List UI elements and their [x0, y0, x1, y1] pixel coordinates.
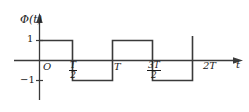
x-tick-label-t: T — [114, 62, 121, 72]
y-tick-label-minus-one: −1 — [20, 75, 35, 85]
fraction-numerator: T — [69, 61, 77, 70]
y-axis — [36, 13, 42, 100]
fraction-numerator: 3T — [147, 61, 161, 70]
y-axis-label: Φ(t) — [20, 14, 42, 25]
fraction-denominator: 2 — [69, 70, 77, 80]
origin-label: O — [43, 62, 51, 72]
x-tick-label-2t: 2T — [203, 61, 216, 71]
square-wave-figure: Φ(t) t O 1 −1 T 2 T 3T 2 2T — [0, 0, 249, 112]
y-tick-label-one: 1 — [27, 34, 33, 44]
x-tick-label-t-over-2: T 2 — [69, 61, 77, 81]
square-wave-trace — [40, 36, 193, 81]
x-axis-label: t — [236, 60, 240, 70]
fraction-denominator: 2 — [147, 70, 161, 80]
x-tick-label-3t-over-2: 3T 2 — [147, 61, 161, 81]
